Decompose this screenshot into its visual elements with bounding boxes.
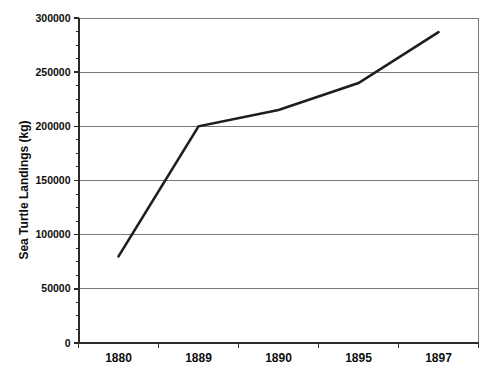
x-tick-label: 1895 (345, 351, 372, 365)
x-tick-label: 1897 (425, 351, 452, 365)
x-tick-label: 1889 (185, 351, 212, 365)
y-tick-label: 0 (65, 337, 71, 349)
x-tick-label: 1890 (265, 351, 292, 365)
x-tick-label: 1880 (105, 351, 132, 365)
y-tick-label: 150000 (35, 174, 70, 186)
y-tick-label: 200000 (35, 120, 70, 132)
chart-figure: __ _______ ___ __ ______ ____ ___ Sea Tu… (0, 0, 489, 376)
y-tick-label: 100000 (35, 228, 70, 240)
y-tick-label: 300000 (35, 12, 70, 24)
y-tick-label: 50000 (41, 282, 70, 294)
line-chart: 0500001000001500002000002500003000001880… (0, 0, 489, 376)
y-tick-label: 250000 (35, 66, 70, 78)
